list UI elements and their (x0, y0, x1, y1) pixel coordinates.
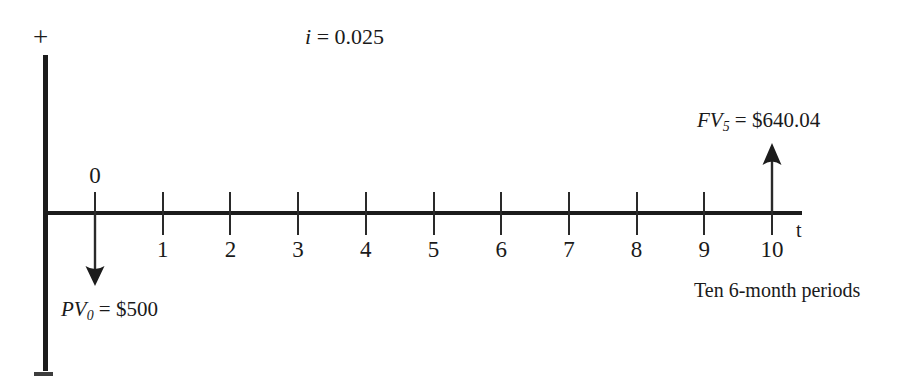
time-axis-label: t (796, 219, 802, 241)
positive-sign-label: + (33, 24, 48, 51)
future-value-amount: $640.04 (752, 108, 820, 132)
tick-mark-3 (297, 192, 299, 235)
present-value-equals: = (94, 297, 116, 321)
period-zero-label: 0 (75, 162, 115, 189)
present-value-label: PV0 = $500 (61, 297, 158, 321)
tick-label-10: 10 (752, 236, 792, 263)
timeline-caption: Ten 6-month periods (694, 278, 860, 302)
present-value-amount: $500 (116, 297, 158, 321)
tick-label-2: 2 (210, 236, 250, 263)
tick-mark-1 (162, 192, 164, 235)
tick-mark-6 (500, 192, 502, 235)
tick-label-9: 9 (684, 236, 724, 263)
tick-label-5: 5 (414, 236, 454, 263)
present-value-subscript: 0 (87, 308, 94, 323)
future-value-arrow (752, 141, 792, 217)
tick-label-1: 1 (143, 236, 183, 263)
tick-label-7: 7 (549, 236, 589, 263)
future-value-symbol: FV (697, 108, 723, 132)
tick-label-4: 4 (346, 236, 386, 263)
interest-rate-label: i = 0.025 (305, 24, 384, 50)
tick-label-6: 6 (481, 236, 521, 263)
present-value-symbol: PV (61, 297, 87, 321)
timeline-diagram: + t i = 0.025 12345678910 0 PV0 = $500 F… (0, 0, 907, 389)
tick-mark-5 (433, 192, 435, 235)
tick-mark-9 (703, 192, 705, 235)
tick-mark-7 (568, 192, 570, 235)
future-value-equals: = (730, 108, 752, 132)
tick-mark-4 (365, 192, 367, 235)
interest-rate-value: 0.025 (335, 24, 385, 49)
future-value-subscript: 5 (723, 119, 730, 134)
tick-label-8: 8 (617, 236, 657, 263)
interest-rate-equals: = (311, 24, 334, 49)
present-value-arrow (75, 210, 115, 290)
tick-mark-2 (229, 192, 231, 235)
tick-mark-8 (636, 192, 638, 235)
tick-label-3: 3 (278, 236, 318, 263)
future-value-label: FV5 = $640.04 (697, 108, 820, 132)
time-axis-line (45, 211, 802, 215)
negative-sign-label (34, 372, 53, 376)
